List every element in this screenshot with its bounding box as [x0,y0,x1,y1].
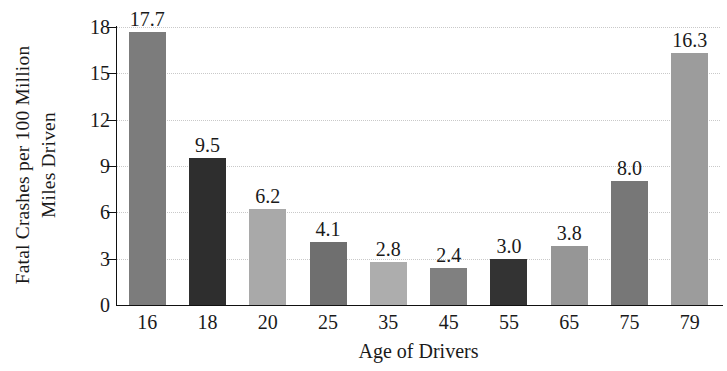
bar-group[interactable]: 2.8 [370,27,407,305]
x-axis-tick-label: 20 [238,309,298,335]
bar-value-label: 2.4 [419,245,479,265]
bar[interactable] [430,268,467,305]
x-axis-tick-label: 65 [539,309,599,335]
y-axis-line [116,26,117,306]
x-axis-tick-label: 16 [117,309,177,335]
bar-group[interactable]: 17.7 [129,27,166,305]
bar-group[interactable]: 4.1 [310,27,347,305]
bar-value-label: 3.8 [539,223,599,243]
bar-value-label: 16.3 [660,30,720,50]
bar[interactable] [129,32,166,305]
y-axis-tick-label: 15 [76,63,110,83]
y-axis-tick-label: 3 [76,249,110,269]
bar[interactable] [370,262,407,305]
bar-group[interactable]: 9.5 [189,27,226,305]
bar-group[interactable]: 6.2 [249,27,286,305]
bar[interactable] [671,53,708,305]
y-axis-title: Fatal Crashes per 100 Million Miles Driv… [0,0,72,330]
x-axis-tick-label: 25 [298,309,358,335]
bar[interactable] [189,158,226,305]
bar-value-label: 8.0 [600,158,660,178]
bar[interactable] [490,259,527,305]
bar[interactable] [249,209,286,305]
bar[interactable] [611,181,648,305]
y-axis-tick-label: 6 [76,202,110,222]
x-axis-tick-label: 45 [419,309,479,335]
bar-group[interactable]: 8.0 [611,27,648,305]
bar-chart: Fatal Crashes per 100 Million Miles Driv… [0,0,727,371]
bar[interactable] [551,246,588,305]
bar-value-label: 9.5 [177,135,237,155]
x-axis-tick-label: 75 [600,309,660,335]
bar-value-label: 17.7 [117,9,177,29]
x-axis-tick-label: 35 [358,309,418,335]
bar-value-label: 4.1 [298,219,358,239]
y-axis-tick-labels: 0369121518 [72,0,110,371]
x-axis-tick-label: 55 [479,309,539,335]
plot-area: 17.79.56.24.12.82.43.03.88.016.3 [117,27,720,305]
x-axis-tick-labels: 16182025354555657579 [117,309,720,339]
bar[interactable] [310,242,347,305]
bar-value-label: 2.8 [358,239,418,259]
bar-group[interactable]: 16.3 [671,27,708,305]
y-axis-tick-label: 0 [76,295,110,315]
bar-value-label: 6.2 [238,186,298,206]
y-axis-title-line2: Miles Driven [36,46,62,285]
bar-group[interactable]: 2.4 [430,27,467,305]
x-axis-tick-label: 79 [660,309,720,335]
x-axis-tick-label: 18 [177,309,237,335]
bar-group[interactable]: 3.8 [551,27,588,305]
y-axis-tick-label: 12 [76,110,110,130]
y-axis-tick-label: 9 [76,156,110,176]
y-axis-title-line1: Fatal Crashes per 100 Million [12,46,33,285]
x-axis-title: Age of Drivers [117,338,720,364]
bar-group[interactable]: 3.0 [490,27,527,305]
y-axis-tick-label: 18 [76,17,110,37]
x-axis-line [116,305,723,306]
bar-value-label: 3.0 [479,236,539,256]
